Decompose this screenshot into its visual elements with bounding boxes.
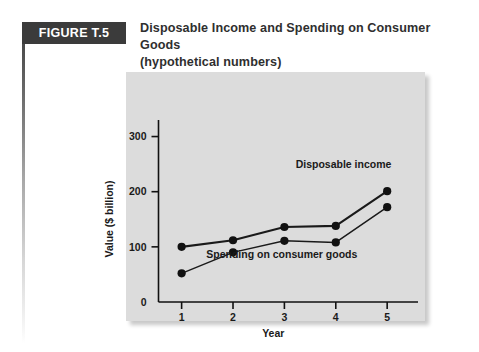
y-axis-title: Value ($ billion) xyxy=(103,180,115,257)
series-data-point xyxy=(332,238,340,246)
series-data-point xyxy=(332,222,340,230)
y-tick-label: 200 xyxy=(129,185,147,197)
x-tick-label: 1 xyxy=(179,311,185,323)
series-data-point xyxy=(280,237,288,245)
series-data-point xyxy=(178,269,186,277)
y-tick-label: 0 xyxy=(141,296,147,308)
x-tick-label: 2 xyxy=(230,311,236,323)
y-axis-ticks: 0100200300 xyxy=(129,130,159,307)
y-tick-label: 300 xyxy=(129,130,147,142)
series-inline-label: Spending on consumer goods xyxy=(206,248,357,260)
series-data-point xyxy=(383,187,391,195)
series-labels-group: Disposable incomeSpending on consumer go… xyxy=(206,158,391,260)
x-tick-label: 5 xyxy=(384,311,390,323)
series-data-point xyxy=(280,223,288,231)
series-data-point xyxy=(229,236,237,244)
series-data-point xyxy=(383,203,391,211)
line-chart: 0100200300 12345 Disposable incomeSpendi… xyxy=(0,0,479,352)
series-markers-group xyxy=(178,187,392,277)
series-inline-label: Disposable income xyxy=(296,158,392,170)
x-tick-label: 4 xyxy=(333,311,339,323)
x-axis-ticks: 12345 xyxy=(179,302,391,323)
x-axis-title: Year xyxy=(262,327,284,339)
x-tick-label: 3 xyxy=(281,311,287,323)
y-tick-label: 100 xyxy=(129,241,147,253)
series-lines-group xyxy=(182,191,388,273)
figure-container: FIGURE T.5 Disposable Income and Spendin… xyxy=(0,0,479,352)
series-data-point xyxy=(178,243,186,251)
